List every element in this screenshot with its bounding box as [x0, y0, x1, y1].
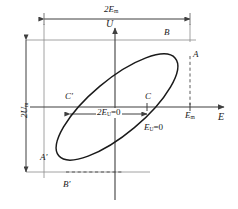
tick-label-EU0-tail: =0 [154, 122, 164, 132]
dimension-label-2EU0: 2EU=0 [96, 108, 122, 118]
dimension-2Em-main: 2E [104, 4, 114, 14]
point-label-B: B [164, 28, 170, 37]
dimension-label-2Um: 2Um [20, 103, 30, 118]
dimension-2EU0-tail: =0 [111, 107, 121, 117]
point-label-B-prime: B' [63, 180, 70, 189]
dimension-2Um-main: 2U [19, 107, 29, 118]
tick-label-Em: Em [185, 111, 195, 121]
construction-lines [26, 24, 196, 178]
point-label-C: C [145, 92, 151, 101]
dimension-2Um-sub: m [23, 103, 29, 107]
dimension-label-2Em: 2Em [104, 5, 118, 15]
axis-label-E: E [218, 112, 224, 122]
tick-label-EU0: EU=0 [144, 123, 163, 133]
dimension-2Em [44, 13, 190, 25]
tick-label-Em-sub: m [191, 114, 195, 120]
point-label-C-prime: C' [65, 92, 73, 101]
figure-root: U E 2Em 2Um 2EU=0 Em EU=0 A B C C' A' B' [0, 0, 238, 209]
dimension-2Em-sub: m [114, 8, 118, 14]
point-label-A-prime: A' [40, 153, 47, 162]
point-label-A: A [193, 50, 199, 59]
dimension-2EU0-main: 2E [97, 107, 107, 117]
axis-label-U: U [106, 19, 113, 29]
ellipse-diagram-canvas [0, 0, 238, 209]
